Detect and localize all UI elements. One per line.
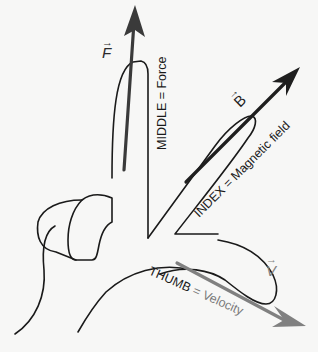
curled-fingers-outline [68, 195, 112, 260]
vector-arrow-icon: → [266, 253, 277, 265]
right-hand-rule-diagram: F → B → V → MIDDLE = Force INDEX = Magne… [0, 0, 318, 352]
vector-symbol-B: B → [224, 85, 249, 110]
wrist-left-edge [15, 226, 55, 334]
thumb-label-quantity: Velocity [200, 288, 246, 319]
force-vector [124, 5, 145, 170]
vector-arrow-icon: → [102, 36, 113, 48]
vector-symbol-V: V → [266, 253, 278, 279]
vector-symbol-F: F → [102, 36, 113, 61]
index-finger-label: INDEX = Magnetic field [191, 119, 293, 221]
middle-finger-label: MIDDLE = Force [155, 57, 169, 150]
